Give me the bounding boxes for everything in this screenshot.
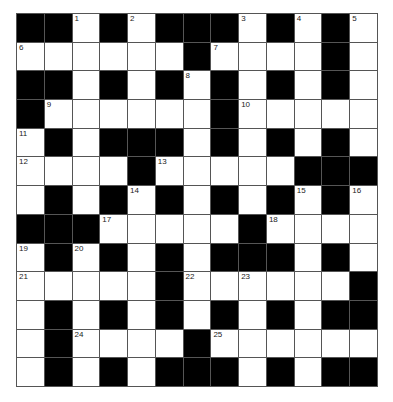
- crossword-cell[interactable]: 11: [17, 129, 44, 157]
- crossword-cell[interactable]: 20: [73, 244, 100, 272]
- crossword-cell[interactable]: [128, 272, 155, 300]
- crossword-cell[interactable]: [73, 43, 100, 71]
- crossword-cell[interactable]: 1: [73, 14, 100, 42]
- crossword-cell[interactable]: [295, 215, 322, 243]
- crossword-cell[interactable]: [45, 157, 72, 185]
- crossword-cell[interactable]: 10: [239, 100, 266, 128]
- crossword-cell[interactable]: [100, 272, 127, 300]
- crossword-cell[interactable]: [211, 215, 238, 243]
- crossword-cell[interactable]: [239, 358, 266, 386]
- crossword-cell[interactable]: [184, 129, 211, 157]
- crossword-cell[interactable]: 13: [156, 157, 183, 185]
- crossword-cell[interactable]: 6: [17, 43, 44, 71]
- crossword-cell[interactable]: [267, 330, 294, 358]
- crossword-cell[interactable]: [184, 100, 211, 128]
- crossword-cell[interactable]: [239, 157, 266, 185]
- crossword-cell[interactable]: [322, 272, 349, 300]
- crossword-cell[interactable]: [45, 272, 72, 300]
- crossword-cell[interactable]: 9: [45, 100, 72, 128]
- crossword-cell[interactable]: [350, 100, 377, 128]
- crossword-cell[interactable]: [350, 330, 377, 358]
- crossword-cell[interactable]: 23: [239, 272, 266, 300]
- crossword-cell[interactable]: [295, 100, 322, 128]
- crossword-cell[interactable]: 12: [17, 157, 44, 185]
- crossword-cell[interactable]: 15: [295, 186, 322, 214]
- crossword-cell[interactable]: [184, 215, 211, 243]
- crossword-cell[interactable]: [295, 244, 322, 272]
- crossword-cell[interactable]: [239, 330, 266, 358]
- crossword-cell[interactable]: [128, 43, 155, 71]
- crossword-cell[interactable]: 4: [295, 14, 322, 42]
- crossword-cell[interactable]: 7: [211, 43, 238, 71]
- crossword-cell[interactable]: 3: [239, 14, 266, 42]
- crossword-cell[interactable]: 18: [267, 215, 294, 243]
- crossword-cell[interactable]: [184, 157, 211, 185]
- crossword-cell[interactable]: [73, 129, 100, 157]
- crossword-cell[interactable]: [295, 71, 322, 99]
- crossword-cell[interactable]: [211, 272, 238, 300]
- crossword-cell[interactable]: [156, 43, 183, 71]
- crossword-cell[interactable]: [128, 100, 155, 128]
- crossword-cell[interactable]: 25: [211, 330, 238, 358]
- crossword-cell[interactable]: [100, 330, 127, 358]
- crossword-cell[interactable]: [239, 186, 266, 214]
- crossword-cell[interactable]: [211, 157, 238, 185]
- crossword-cell[interactable]: [295, 330, 322, 358]
- crossword-cell[interactable]: [239, 301, 266, 329]
- crossword-cell[interactable]: [267, 43, 294, 71]
- crossword-cell[interactable]: [128, 244, 155, 272]
- crossword-cell[interactable]: [45, 43, 72, 71]
- crossword-cell[interactable]: 16: [350, 186, 377, 214]
- crossword-cell[interactable]: 2: [128, 14, 155, 42]
- crossword-cell[interactable]: [267, 100, 294, 128]
- crossword-cell[interactable]: [156, 215, 183, 243]
- crossword-cell[interactable]: 21: [17, 272, 44, 300]
- crossword-cell[interactable]: [184, 244, 211, 272]
- crossword-cell[interactable]: [322, 215, 349, 243]
- crossword-cell[interactable]: [17, 358, 44, 386]
- crossword-cell[interactable]: [239, 129, 266, 157]
- crossword-cell[interactable]: [350, 129, 377, 157]
- crossword-cell[interactable]: [267, 272, 294, 300]
- crossword-cell[interactable]: 8: [184, 71, 211, 99]
- crossword-cell[interactable]: [17, 330, 44, 358]
- crossword-cell[interactable]: [128, 358, 155, 386]
- crossword-cell[interactable]: [17, 301, 44, 329]
- crossword-cell[interactable]: [322, 330, 349, 358]
- crossword-cell[interactable]: [295, 129, 322, 157]
- crossword-cell[interactable]: [100, 43, 127, 71]
- crossword-cell[interactable]: 22: [184, 272, 211, 300]
- crossword-cell[interactable]: [128, 330, 155, 358]
- crossword-cell[interactable]: [128, 301, 155, 329]
- crossword-cell[interactable]: [100, 100, 127, 128]
- crossword-cell[interactable]: [128, 71, 155, 99]
- crossword-cell[interactable]: [184, 301, 211, 329]
- crossword-cell[interactable]: [73, 301, 100, 329]
- crossword-cell[interactable]: [73, 71, 100, 99]
- crossword-cell[interactable]: [156, 330, 183, 358]
- crossword-cell[interactable]: [184, 186, 211, 214]
- crossword-cell[interactable]: [156, 100, 183, 128]
- crossword-cell[interactable]: [73, 186, 100, 214]
- crossword-cell[interactable]: 17: [100, 215, 127, 243]
- crossword-cell[interactable]: [295, 272, 322, 300]
- crossword-cell[interactable]: 14: [128, 186, 155, 214]
- crossword-cell[interactable]: [73, 157, 100, 185]
- crossword-cell[interactable]: [350, 71, 377, 99]
- crossword-cell[interactable]: [128, 215, 155, 243]
- crossword-cell[interactable]: [239, 71, 266, 99]
- crossword-cell[interactable]: [17, 186, 44, 214]
- crossword-cell[interactable]: [73, 272, 100, 300]
- crossword-cell[interactable]: [322, 100, 349, 128]
- crossword-cell[interactable]: [73, 358, 100, 386]
- crossword-cell[interactable]: [295, 301, 322, 329]
- crossword-cell[interactable]: 19: [17, 244, 44, 272]
- crossword-cell[interactable]: [239, 43, 266, 71]
- crossword-cell[interactable]: [295, 43, 322, 71]
- crossword-cell[interactable]: [350, 244, 377, 272]
- crossword-cell[interactable]: 5: [350, 14, 377, 42]
- crossword-cell[interactable]: [295, 358, 322, 386]
- crossword-cell[interactable]: 24: [73, 330, 100, 358]
- crossword-cell[interactable]: [73, 100, 100, 128]
- crossword-cell[interactable]: [100, 157, 127, 185]
